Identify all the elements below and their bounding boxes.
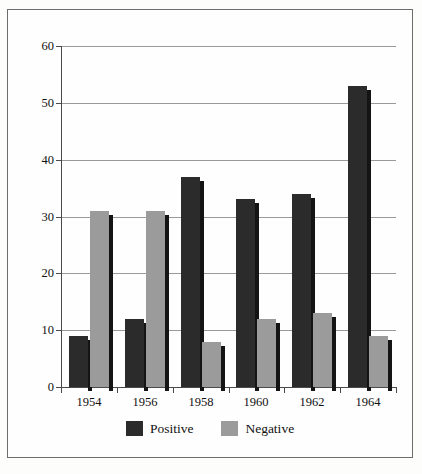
plot-area (61, 46, 396, 387)
chart-page: 0102030405060 195419561958196019621964 P… (0, 0, 422, 474)
x-axis-tick-mark (396, 388, 397, 393)
y-axis-tick-label: 30 (16, 211, 54, 224)
bar-face (257, 319, 276, 387)
bar-negative-1954 (90, 211, 109, 387)
bar-positive-1960 (236, 199, 255, 387)
bar-face (236, 199, 255, 387)
legend-item-positive: Positive (126, 421, 194, 436)
bar-positive-1958 (181, 177, 200, 387)
bar-shadow (388, 340, 392, 391)
y-axis-tick-label: 50 (16, 97, 54, 110)
bar-face (369, 336, 388, 387)
legend-swatch-positive (126, 421, 143, 436)
bar-positive-1954 (69, 336, 88, 387)
bar-face (69, 336, 88, 387)
x-axis-tick-label: 1954 (61, 396, 117, 409)
x-axis-tick-mark (117, 388, 118, 393)
bar-negative-1962 (313, 313, 332, 387)
legend-swatch-negative (221, 421, 238, 436)
bar-positive-1956 (125, 319, 144, 387)
legend-label: Negative (245, 422, 294, 436)
bar-face (146, 211, 165, 387)
bar-face (181, 177, 200, 387)
bar-face (292, 194, 311, 387)
y-axis-tick-label: 20 (16, 267, 54, 280)
chart-legend: PositiveNegative (8, 421, 412, 436)
bar-negative-1956 (146, 211, 165, 387)
bar-shadow (221, 346, 225, 391)
bar-face (125, 319, 144, 387)
x-axis-tick-mark (229, 388, 230, 393)
bar-negative-1964 (369, 336, 388, 387)
x-axis-tick-label: 1958 (173, 396, 229, 409)
bar-shadow (332, 317, 336, 391)
y-axis-tick-label: 10 (16, 324, 54, 337)
bar-negative-1960 (257, 319, 276, 387)
bar-face (348, 86, 367, 387)
bar-face (313, 313, 332, 387)
x-axis-tick-mark (340, 388, 341, 393)
x-axis-tick-mark (61, 388, 62, 393)
legend-label: Positive (150, 422, 194, 436)
x-axis-tick-label: 1960 (228, 396, 284, 409)
bar-shadow (165, 215, 169, 391)
y-axis-tick-label: 0 (16, 381, 54, 394)
chart-frame: 0102030405060 195419561958196019621964 P… (7, 9, 413, 458)
x-axis-tick-mark (284, 388, 285, 393)
y-axis-tick-label: 40 (16, 154, 54, 167)
x-axis-tick-label: 1964 (340, 396, 396, 409)
bar-positive-1962 (292, 194, 311, 387)
legend-item-negative: Negative (221, 421, 294, 436)
bar-negative-1958 (202, 342, 221, 387)
bar-shadow (276, 323, 280, 391)
bar-face (90, 211, 109, 387)
y-axis-tick-label: 60 (16, 40, 54, 53)
bar-shadow (109, 215, 113, 391)
x-axis-tick-label: 1962 (284, 396, 340, 409)
x-axis-tick-label: 1956 (117, 396, 173, 409)
bar-face (202, 342, 221, 387)
bar-positive-1964 (348, 86, 367, 387)
x-axis-tick-mark (173, 388, 174, 393)
